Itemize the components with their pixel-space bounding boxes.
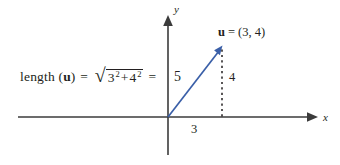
y-component-label: 4: [229, 71, 235, 84]
vector-label-coordinates: (3, 4): [238, 25, 265, 39]
vector-label-equals: =: [228, 25, 235, 39]
formula-equals-1: =: [80, 70, 88, 84]
x-axis-arrowhead: [307, 112, 318, 122]
y-axis-arrowhead: [163, 15, 173, 26]
length-formula: length ( u ) = √ 32+42 =: [20, 68, 161, 85]
vector-label-symbol: u: [218, 25, 225, 39]
radicand: 32+42: [106, 69, 144, 85]
formula-equals-2: =: [148, 70, 156, 84]
radical-sign-icon: √: [95, 69, 106, 82]
x-component-label: 3: [191, 123, 197, 136]
formula-name-close: ): [71, 70, 76, 84]
square-root-expression: √ 32+42: [95, 68, 144, 85]
y-axis-label: y: [174, 4, 179, 15]
x-axis-label: x: [323, 112, 328, 123]
vector-u-line: [168, 51, 219, 117]
formula-name-text: length (: [20, 70, 63, 84]
length-value-label: 5: [174, 70, 181, 84]
term1-base: 3: [108, 70, 115, 85]
term2-exponent: 2: [136, 69, 141, 79]
vector-length-figure: y x length ( u ) = √ 32+42 = 5 3 4 u=(3,…: [0, 0, 340, 165]
vector-u-arrowhead: [214, 46, 222, 56]
formula-vector-symbol: u: [63, 70, 71, 84]
vector-u-label: u=(3, 4): [218, 26, 265, 39]
